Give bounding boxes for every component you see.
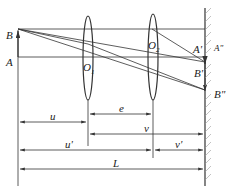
label-A-double-prime: A" (214, 44, 223, 53)
ray-4a (18, 29, 88, 44)
screen-hatch (205, 8, 211, 180)
label-e: e (119, 103, 124, 114)
label-B-double-prime: B" (214, 89, 225, 100)
label-O2: O2 (148, 40, 159, 54)
label-u-prime: u' (65, 139, 73, 150)
ray-3 (18, 29, 205, 90)
label-L: L (113, 158, 119, 169)
label-O1: O1 (83, 62, 94, 76)
label-v-prime: v' (175, 139, 182, 150)
label-v: v (144, 123, 149, 134)
label-A-prime: A' (193, 44, 202, 55)
label-B-prime: B' (194, 68, 203, 79)
label-A: A (6, 57, 13, 68)
label-B: B (6, 30, 13, 41)
label-u: u (50, 111, 56, 122)
